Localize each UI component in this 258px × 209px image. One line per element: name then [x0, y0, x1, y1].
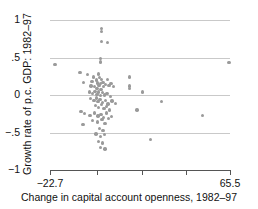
scatter-point: [96, 120, 99, 123]
scatter-point: [99, 135, 102, 138]
scatter-point: [97, 106, 100, 109]
x-tick-label: −22.7: [37, 177, 64, 189]
scatter-point: [112, 85, 115, 88]
scatter-point: [82, 81, 85, 84]
y-tick-label: −1: [0, 163, 20, 175]
scatter-chart-figure: Growth rate of p.c. GDP: 1982–97 Change …: [0, 0, 258, 209]
x-tick: [97, 170, 98, 175]
scatter-point: [101, 129, 104, 132]
x-axis-line: [50, 170, 230, 171]
x-tick-label: 65.5: [220, 177, 240, 189]
y-gridline: [50, 95, 230, 96]
y-gridline: [50, 58, 230, 59]
scatter-point: [91, 119, 94, 122]
scatter-point: [149, 138, 152, 141]
scatter-point: [106, 78, 109, 81]
y-gridline: [50, 133, 230, 134]
y-tick-label: .5: [0, 51, 20, 63]
scatter-point: [110, 115, 113, 118]
scatter-point: [100, 30, 103, 33]
y-tick-label: 1: [0, 13, 20, 25]
y-tick-label: −.5: [0, 126, 20, 138]
scatter-point: [101, 141, 104, 144]
x-tick: [50, 170, 51, 175]
scatter-point: [78, 71, 81, 74]
scatter-point: [97, 84, 100, 87]
x-tick: [186, 170, 187, 175]
scatter-point: [110, 99, 113, 102]
y-tick-label: 0: [0, 88, 20, 100]
scatter-point: [90, 80, 93, 83]
scatter-point: [109, 95, 112, 98]
scatter-point: [106, 41, 109, 44]
y-gridline: [50, 20, 230, 21]
scatter-point: [108, 108, 111, 111]
scatter-point: [227, 61, 230, 64]
scatter-point: [99, 60, 102, 63]
scatter-point: [141, 90, 144, 93]
scatter-point: [114, 102, 117, 105]
x-tick: [230, 170, 231, 175]
scatter-point: [81, 123, 84, 126]
plot-area: [50, 20, 230, 170]
scatter-point: [105, 92, 108, 95]
scatter-point: [107, 84, 110, 87]
scatter-point: [86, 73, 89, 76]
y-axis-title: Growth rate of p.c. GDP: 1982–97: [21, 9, 33, 179]
scatter-point: [88, 114, 91, 117]
scatter-point: [99, 146, 102, 149]
scatter-point: [99, 94, 102, 97]
scatter-point: [100, 103, 103, 106]
x-axis-title: Change in capital account openness, 1982…: [0, 191, 258, 203]
scatter-point: [201, 114, 204, 117]
scatter-point: [128, 87, 131, 90]
scatter-point: [94, 132, 97, 135]
scatter-point: [160, 100, 163, 103]
scatter-point: [103, 122, 106, 125]
scatter-point: [128, 75, 131, 78]
x-tick: [142, 170, 143, 175]
scatter-point: [105, 111, 108, 114]
scatter-point: [135, 108, 138, 111]
scatter-point: [53, 63, 56, 66]
scatter-point: [103, 133, 106, 136]
scatter-point: [103, 147, 106, 150]
scatter-point: [100, 118, 103, 121]
scatter-point: [97, 140, 100, 143]
scatter-point: [100, 40, 103, 43]
scatter-point: [83, 112, 86, 115]
